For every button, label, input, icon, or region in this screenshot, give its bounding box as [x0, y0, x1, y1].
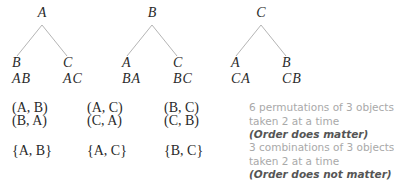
combinations-line1: 3 combinations of 3 objects — [249, 141, 394, 155]
ordered-pair-group: (A, B) (B, A) — [12, 101, 48, 127]
tree-leaf: A — [122, 55, 131, 71]
combinations-note: 3 combinations of 3 objects taken 2 at a… — [249, 141, 394, 182]
tree-leaf: A — [231, 55, 240, 71]
tree-pair: AB — [12, 71, 31, 87]
tree-pair: BC — [173, 71, 193, 87]
tree-root: B — [148, 5, 157, 21]
combinations-line2: taken 2 at a time — [249, 155, 394, 169]
set: {A, B} — [12, 144, 52, 157]
permutations-line2: taken 2 at a time — [249, 115, 394, 129]
tree-pair: BA — [122, 71, 141, 87]
ordered-pair-group: (B, C) (C, B) — [164, 101, 199, 127]
ordered-pair-group: (A, C) (C, A) — [87, 101, 123, 127]
combinations-order: (Order does not matter) — [249, 168, 394, 182]
tree-leaf: B — [12, 55, 21, 71]
set: {B, C} — [164, 144, 203, 157]
permutations-line1: 6 permutations of 3 objects — [249, 101, 394, 115]
tree-leaf: B — [282, 55, 291, 71]
ordered-pair: (B, A) — [12, 114, 48, 127]
tree-leaf: C — [63, 55, 72, 71]
tree-pair: CB — [282, 71, 302, 87]
tree-leaf: C — [173, 55, 182, 71]
tree-root: C — [256, 5, 265, 21]
tree-pair: AC — [63, 71, 83, 87]
tree-root: A — [38, 5, 47, 21]
ordered-pair: (C, A) — [87, 114, 123, 127]
permutations-note: 6 permutations of 3 objects taken 2 at a… — [249, 101, 394, 142]
tree-pair: CA — [231, 71, 251, 87]
set: {A, C} — [87, 144, 127, 157]
ordered-pair: (C, B) — [164, 114, 199, 127]
permutations-order: (Order does matter) — [249, 128, 394, 142]
